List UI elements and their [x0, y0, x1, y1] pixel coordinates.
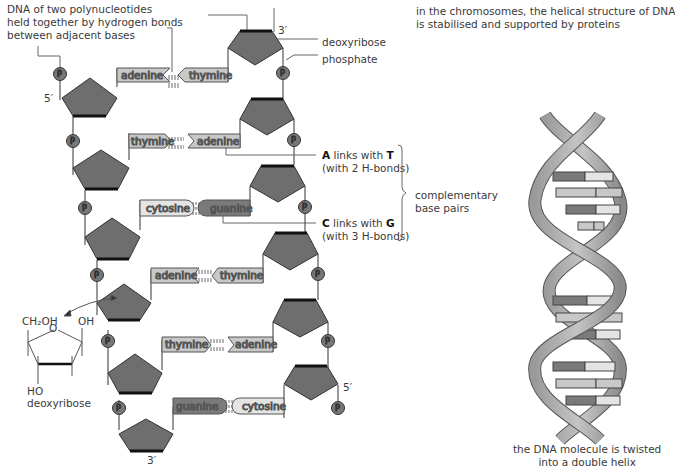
svg-text:P: P — [335, 404, 340, 413]
sugar-icon — [263, 233, 318, 270]
sugar-icon — [240, 99, 294, 135]
base-pair-1: adenine thymine — [117, 68, 232, 88]
double-helix-icon — [535, 115, 622, 440]
svg-text:P: P — [280, 69, 285, 78]
svg-text:P: P — [82, 204, 87, 213]
base-label: adenine — [235, 338, 277, 350]
base-label: thymine — [131, 135, 174, 147]
sugar-icon — [108, 354, 162, 393]
phosphate-icon: P — [312, 268, 325, 281]
base-pair-5: thymine adenine — [162, 337, 277, 352]
base-label: adenine — [197, 135, 239, 147]
base-label: cytosine — [242, 400, 286, 412]
base-label: thymine — [165, 338, 208, 350]
sugar-icon — [228, 31, 283, 65]
sugar-icon — [62, 78, 117, 116]
sugar-icon — [73, 150, 129, 189]
sugar-icon — [284, 366, 338, 400]
phosphate-icon: P — [79, 202, 92, 215]
base-label: guanine — [210, 202, 252, 214]
phosphate-icon: P — [102, 335, 115, 348]
svg-text:P: P — [70, 137, 75, 146]
phosphate-icon: P — [322, 335, 335, 348]
phosphate-icon: P — [67, 135, 80, 148]
phosphate-icon: P — [332, 402, 345, 415]
base-label: guanine — [176, 400, 218, 412]
base-label: thymine — [220, 269, 263, 281]
sugar-icon — [250, 166, 305, 202]
phosphate-icon: P — [91, 269, 104, 282]
base-label: cytosine — [146, 202, 190, 214]
svg-text:P: P — [94, 271, 99, 280]
sugar-icon — [273, 300, 328, 337]
sugar-icon — [85, 218, 140, 259]
svg-text:P: P — [116, 404, 121, 413]
base-pair-4: adenine thymine — [151, 268, 263, 283]
phosphate-icon: P — [277, 67, 290, 80]
svg-text:P: P — [325, 337, 330, 346]
phosphate-icon: P — [113, 402, 126, 415]
base-pair-6: guanine cytosine — [173, 398, 286, 414]
base-label: adenine — [155, 269, 197, 281]
svg-text:P: P — [57, 70, 62, 79]
sugar-icon — [119, 419, 173, 451]
base-label: adenine — [121, 69, 163, 81]
phosphate-icon: P — [288, 134, 301, 147]
phosphate-icon: P — [299, 201, 312, 214]
right-backbone — [283, 48, 338, 405]
sugar-icon — [97, 284, 151, 320]
svg-text:P: P — [291, 136, 296, 145]
svg-text:P: P — [302, 203, 307, 212]
phosphate-icon: P — [54, 68, 67, 81]
base-pair-2: thymine adenine — [129, 134, 240, 149]
base-label: thymine — [189, 69, 232, 81]
base-pair-3: cytosine guanine — [140, 200, 252, 216]
svg-text:P: P — [315, 270, 320, 279]
svg-text:P: P — [105, 337, 110, 346]
